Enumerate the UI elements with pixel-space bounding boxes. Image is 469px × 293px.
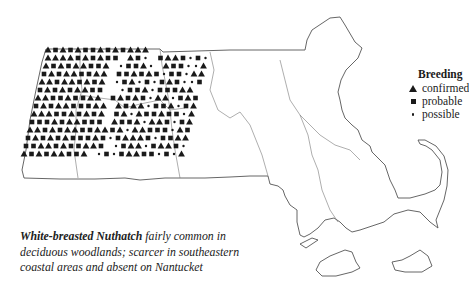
probable-symbol — [178, 96, 183, 101]
probable-symbol — [154, 72, 159, 77]
probable-symbol — [71, 136, 76, 141]
confirmed-symbol — [67, 54, 74, 60]
possible-symbol — [163, 73, 165, 75]
probable-symbol — [31, 144, 36, 149]
probable-symbol — [148, 128, 153, 133]
possible-symbol — [182, 145, 184, 147]
possible-symbol — [177, 105, 179, 107]
confirmed-symbol — [182, 134, 189, 140]
confirmed-symbol — [58, 150, 65, 156]
confirmed-symbol — [60, 46, 67, 52]
probable-symbol — [171, 64, 176, 69]
confirmed-symbol — [158, 110, 165, 116]
probable-symbol — [165, 88, 170, 93]
probable-symbol — [124, 104, 129, 109]
confirmed-symbol — [132, 94, 139, 100]
legend-label: probable — [422, 95, 462, 108]
legend-item-confirmed: confirmed — [408, 82, 469, 95]
possible-symbol — [183, 113, 185, 115]
probable-symbol — [193, 96, 198, 101]
confirmed-symbol — [165, 142, 172, 148]
legend-title: Breeding — [418, 68, 469, 81]
probable-symbol — [127, 120, 132, 125]
probable-symbol — [165, 120, 170, 125]
probable-symbol — [91, 56, 96, 61]
confirmed-symbol — [74, 86, 81, 92]
confirmed-symbol — [178, 150, 185, 156]
confirmed-symbol — [130, 134, 137, 140]
confirmed-symbol — [59, 86, 66, 92]
confirmed-symbol — [117, 126, 124, 132]
probable-symbol — [101, 136, 106, 141]
probable-symbol — [121, 144, 126, 149]
probable-symbol — [53, 48, 58, 53]
possible-symbol — [171, 129, 173, 131]
probable-symbol — [69, 144, 74, 149]
possible-symbol — [153, 81, 155, 83]
confirmed-symbol — [36, 150, 43, 156]
confirmed-symbol — [80, 62, 87, 68]
possible-symbol — [154, 137, 156, 139]
confirmed-symbol — [51, 118, 58, 124]
triangle-icon — [408, 85, 418, 92]
confirmed-symbol — [55, 102, 62, 108]
confirmed-symbol — [142, 86, 149, 92]
probable-symbol — [106, 48, 111, 53]
confirmed-symbol — [198, 70, 205, 76]
confirmed-symbol — [129, 78, 136, 84]
confirmed-symbol — [81, 150, 88, 156]
confirmed-symbol — [75, 46, 82, 52]
confirmed-symbol — [71, 70, 78, 76]
probable-symbol — [119, 152, 124, 157]
confirmed-symbol — [101, 70, 108, 76]
probable-symbol — [124, 72, 129, 77]
possible-symbol — [116, 81, 118, 83]
confirmed-symbol — [87, 94, 94, 100]
legend-label: possible — [422, 108, 460, 121]
confirmed-symbol — [93, 102, 100, 108]
probable-symbol — [44, 152, 49, 157]
probable-symbol — [179, 64, 184, 69]
confirmed-symbol — [45, 142, 52, 148]
probable-symbol — [139, 72, 144, 77]
probable-symbol — [78, 136, 83, 141]
confirmed-symbol — [158, 142, 165, 148]
confirmed-symbol — [186, 118, 193, 124]
probable-symbol — [83, 48, 88, 53]
possible-symbol — [183, 81, 185, 83]
confirmed-symbol — [117, 94, 124, 100]
confirmed-symbol — [39, 78, 46, 84]
confirmed-symbol — [42, 94, 49, 100]
probable-symbol — [62, 112, 67, 117]
probable-symbol — [160, 80, 165, 85]
confirmed-symbol — [45, 54, 52, 60]
confirmed-symbol — [60, 142, 67, 148]
confirmed-symbol — [166, 78, 173, 84]
confirmed-symbol — [97, 54, 104, 60]
probable-symbol — [38, 88, 43, 93]
probable-symbol — [24, 144, 29, 149]
possible-symbol — [204, 57, 206, 59]
probable-symbol — [51, 64, 56, 69]
confirmed-symbol — [63, 102, 70, 108]
legend-label: confirmed — [422, 82, 469, 95]
probable-symbol — [158, 56, 163, 61]
confirmed-symbol — [127, 54, 134, 60]
probable-symbol — [144, 112, 149, 117]
confirmed-symbol — [43, 62, 50, 68]
probable-symbol — [146, 136, 151, 141]
probable-symbol — [37, 120, 42, 125]
confirmed-symbol — [111, 118, 118, 124]
confirmed-symbol — [121, 110, 128, 116]
confirmed-symbol — [98, 110, 105, 116]
probable-symbol — [111, 96, 116, 101]
probable-symbol — [90, 88, 95, 93]
probable-symbol — [99, 144, 104, 149]
confirmed-symbol — [165, 54, 172, 60]
confirmed-symbol — [32, 134, 39, 140]
probable-symbol — [197, 80, 202, 85]
confirmed-symbol — [139, 126, 146, 132]
confirmed-symbol — [133, 150, 140, 156]
probable-symbol — [97, 120, 102, 125]
confirmed-symbol — [46, 110, 53, 116]
